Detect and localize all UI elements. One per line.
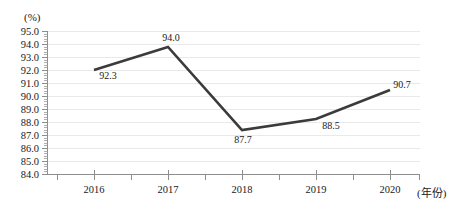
y-axis-tick-label: 88.0 [21, 117, 39, 128]
y-axis-tick-label: 87.0 [21, 130, 39, 141]
y-axis-tick-label: 94.0 [21, 39, 39, 50]
y-minor-ticks-group [44, 34, 48, 172]
data-label-2016: 92.3 [99, 70, 117, 81]
y-axis-tick-label: 93.0 [21, 52, 39, 63]
y-axis-group: 95.0 94.0 93.0 92.0 91.0 90.0 89.0 88.0 … [21, 26, 48, 180]
y-axis-tick-label: 90.0 [21, 91, 39, 102]
y-axis-tick-label: 95.0 [21, 26, 39, 37]
line-chart-figure: 95.0 94.0 93.0 92.0 91.0 90.0 89.0 88.0 … [0, 0, 466, 217]
x-axis-tick-label: 2019 [306, 184, 327, 195]
x-axis-tick-label: 2018 [232, 184, 253, 195]
x-axis-group: 2016 2017 2018 2019 2020 [47, 170, 420, 195]
data-label-2017: 94.0 [162, 32, 180, 43]
x-axis-tick-label: 2016 [84, 184, 105, 195]
y-axis-unit-label: (%) [24, 11, 41, 24]
data-label-2019: 88.5 [322, 120, 340, 131]
y-axis-tick-label: 89.0 [21, 104, 39, 115]
y-axis-tick-label: 84.0 [21, 169, 39, 180]
y-axis-tick-label: 92.0 [21, 65, 39, 76]
y-axis-tick-label: 85.0 [21, 156, 39, 167]
x-axis-unit-label: (年份) [417, 186, 447, 200]
data-series-group [94, 47, 390, 130]
x-axis-tick-label: 2020 [380, 184, 401, 195]
data-label-2018: 87.7 [234, 134, 252, 145]
y-axis-tick-label: 91.0 [21, 78, 39, 89]
y-axis-tick-label: 86.0 [21, 143, 39, 154]
data-label-2020: 90.7 [393, 79, 411, 90]
series-line-path [94, 47, 390, 130]
x-axis-tick-label: 2017 [158, 184, 179, 195]
chart-canvas: 95.0 94.0 93.0 92.0 91.0 90.0 89.0 88.0 … [0, 0, 466, 217]
